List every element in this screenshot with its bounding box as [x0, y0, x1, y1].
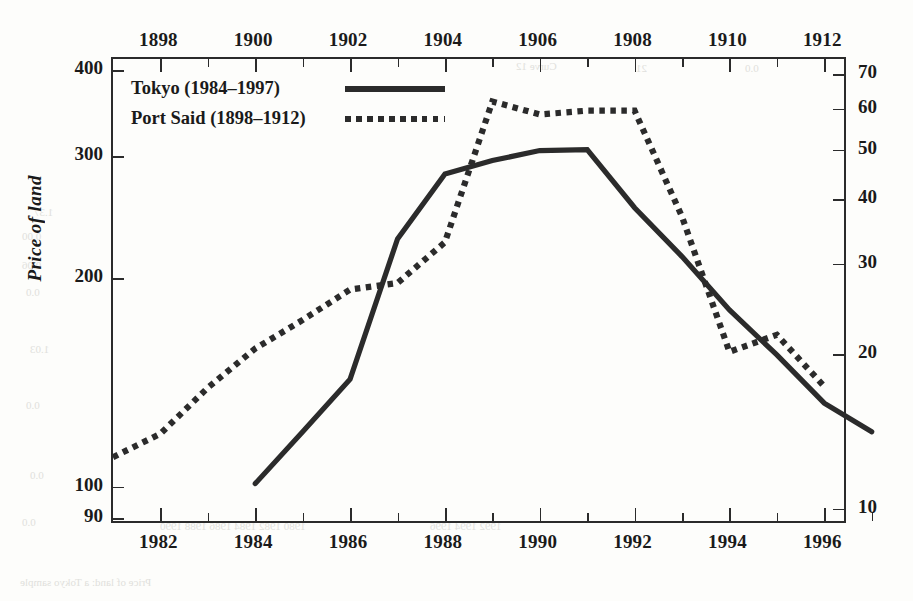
legend-swatch-solid	[341, 79, 449, 97]
top-tick-label: 1898	[139, 29, 178, 51]
bleed-text: Price of land: a Tokyo sample	[20, 576, 151, 588]
bottom-tick-label: 1990	[518, 531, 557, 553]
plot-area: Tokyo (1984–1997) Port Said (1898–1912)	[111, 57, 846, 523]
legend-row-tokyo: Tokyo (1984–1997)	[131, 73, 449, 103]
bottom-tick-label: 1982	[139, 531, 178, 553]
top-tick-label: 1908	[613, 29, 652, 51]
top-tick-label: 1904	[424, 29, 463, 51]
bottom-tick-label: 1992	[613, 531, 652, 553]
legend-row-port-said: Port Said (1898–1912)	[131, 103, 449, 133]
top-tick-label: 1910	[708, 29, 747, 51]
chart-page: Curve 12210.01.370.000.060.01.030.00.00.…	[0, 0, 913, 601]
bleed-text: 1.03	[30, 343, 49, 355]
left-tick-label: 100	[45, 474, 103, 496]
tick-bottom-minor	[872, 513, 874, 521]
bottom-tick-label: 1984	[234, 531, 273, 553]
bottom-tick-label: 1988	[424, 531, 463, 553]
bleed-text: 0.0	[22, 516, 36, 528]
chart-legend: Tokyo (1984–1997) Port Said (1898–1912)	[131, 73, 449, 133]
series-line-tokyo	[255, 150, 871, 484]
left-tick-label: 400	[45, 57, 103, 79]
right-tick-label: 30	[858, 251, 898, 273]
bleed-text: 0.0	[30, 469, 44, 481]
left-tick-label: 90	[45, 505, 103, 527]
bleed-text: 0.0	[26, 399, 40, 411]
right-tick-label: 40	[858, 186, 898, 208]
left-tick-label: 300	[45, 143, 103, 165]
bottom-tick-label: 1994	[708, 531, 747, 553]
right-tick-label: 10	[858, 496, 898, 518]
legend-label-port-said: Port Said (1898–1912)	[131, 108, 341, 129]
bleed-text: 0.0	[26, 286, 40, 298]
series-line-port	[113, 101, 824, 457]
top-tick-label: 1902	[329, 29, 368, 51]
legend-swatch-dotted	[341, 109, 449, 127]
right-tick-label: 60	[858, 96, 898, 118]
bottom-tick-label: 1986	[329, 531, 368, 553]
left-tick-label: 200	[45, 265, 103, 287]
y-axis-title: Price of land	[24, 175, 46, 282]
top-tick-label: 1906	[518, 29, 557, 51]
top-tick-label: 1900	[234, 29, 273, 51]
right-tick-label: 50	[858, 137, 898, 159]
right-tick-label: 70	[858, 61, 898, 83]
bottom-tick-label: 1996	[803, 531, 842, 553]
top-tick-label: 1912	[803, 29, 842, 51]
right-tick-label: 20	[858, 341, 898, 363]
legend-label-tokyo: Tokyo (1984–1997)	[131, 78, 341, 99]
